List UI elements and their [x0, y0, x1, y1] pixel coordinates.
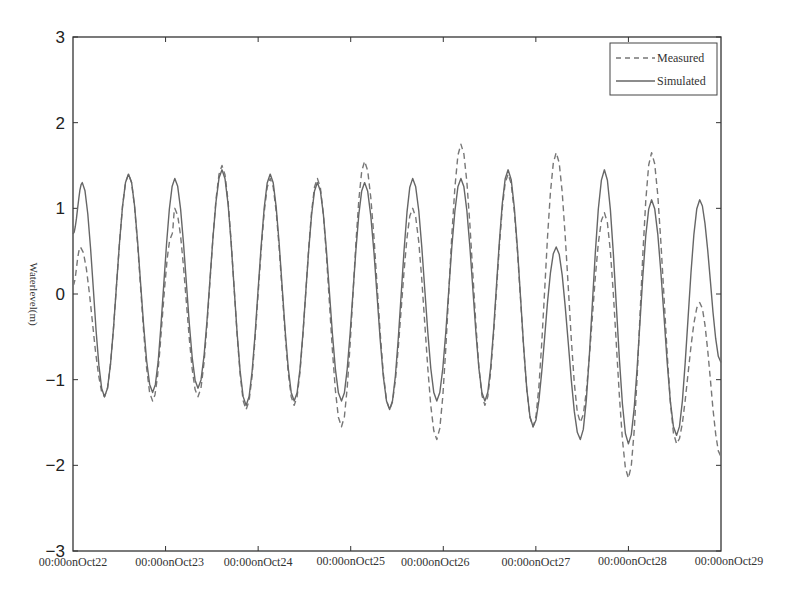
y-tick-label: 0 [56, 285, 65, 304]
x-tick-label: 00:00onOct23 [135, 555, 204, 569]
water-level-chart: 3210−1−2−3 00:00onOct2200:00onOct2300:00… [0, 0, 797, 599]
plot-frame [73, 37, 721, 551]
x-tick-label: 00:00onOct25 [316, 554, 385, 568]
y-axis-label: Waterlevel(m) [27, 262, 40, 326]
legend-measured-label: Measured [657, 51, 704, 65]
y-tick-label: −2 [46, 456, 65, 475]
y-tick-label: 1 [56, 199, 65, 218]
y-tick-label: 3 [56, 28, 65, 47]
x-tick-label: 00:00onOct22 [39, 555, 108, 569]
y-tick-label: −1 [46, 371, 65, 390]
legend-simulated-label: Simulated [657, 74, 706, 88]
x-tick-label: 00:00onOct27 [502, 555, 571, 569]
x-tick-label: 00:00onOct29 [695, 554, 764, 568]
x-tick-label: 00:00onOct26 [401, 555, 470, 569]
legend: Measured Simulated [610, 43, 717, 95]
x-tick-label: 00:00onOct28 [598, 554, 667, 568]
x-tick-label: 00:00onOct24 [224, 555, 293, 569]
y-tick-label: 2 [56, 114, 65, 133]
axes-box [73, 37, 721, 551]
